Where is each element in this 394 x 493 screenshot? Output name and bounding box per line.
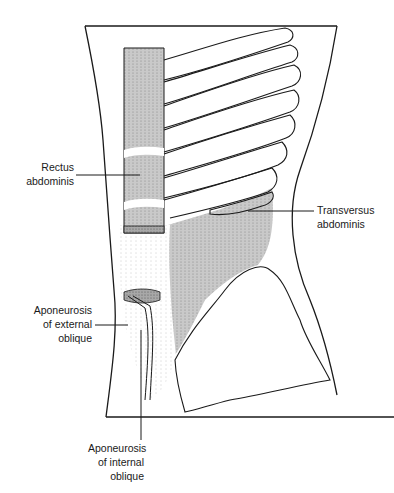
label-line: abdominis xyxy=(317,217,394,231)
label-line: oblique xyxy=(0,331,92,345)
label-line: Transversus xyxy=(317,203,394,217)
label-line: of external xyxy=(0,317,92,331)
abdominal-wall-illustration xyxy=(0,0,394,493)
label-line: abdominis xyxy=(18,174,74,188)
label-line: of internal xyxy=(88,455,144,469)
label-aponeurosis-external-oblique: Aponeurosis of external oblique xyxy=(0,303,92,345)
internal-oblique-region xyxy=(119,225,176,400)
label-line: Aponeurosis xyxy=(0,303,92,317)
rib-cage xyxy=(164,28,301,218)
label-aponeurosis-internal-oblique: Aponeurosis of internal oblique xyxy=(88,441,144,483)
label-line: Rectus xyxy=(18,160,74,174)
label-rectus-abdominis: Rectus abdominis xyxy=(18,160,74,188)
label-transversus-abdominis: Transversus abdominis xyxy=(317,203,394,231)
label-line: oblique xyxy=(88,469,144,483)
label-line: Aponeurosis xyxy=(88,441,144,455)
